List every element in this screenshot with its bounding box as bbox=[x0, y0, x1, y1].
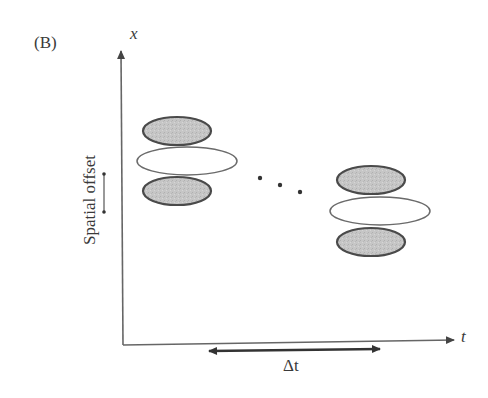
grey-ellipse-top bbox=[143, 117, 211, 145]
white-ellipse-center bbox=[137, 147, 237, 175]
diagram-canvas bbox=[0, 0, 488, 398]
delta-t-label: Δt bbox=[283, 356, 299, 376]
delta-t-arrow bbox=[209, 349, 380, 351]
grey-ellipse-bottom bbox=[337, 228, 405, 256]
x-axis-label: t bbox=[461, 327, 466, 347]
white-ellipse-center bbox=[330, 197, 430, 225]
grey-ellipse-bottom bbox=[143, 177, 211, 205]
grey-ellipse-top bbox=[337, 166, 405, 194]
ellipse-group-early bbox=[137, 117, 237, 205]
x-axis-line bbox=[121, 51, 123, 345]
y-axis-label: x bbox=[130, 24, 138, 44]
spatial-offset-label: Spatial offset bbox=[80, 155, 100, 245]
offset-scale-bar bbox=[102, 172, 106, 214]
panel-label: (B) bbox=[34, 33, 57, 53]
ellipse-group-late bbox=[330, 166, 430, 256]
ellipsis-dots bbox=[258, 176, 302, 194]
t-axis-line bbox=[123, 340, 454, 345]
